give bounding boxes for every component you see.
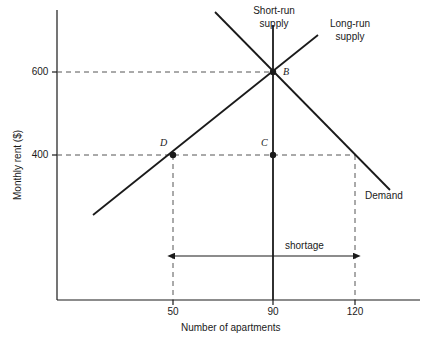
long-run-supply-curve <box>93 35 318 215</box>
long-run-supply-label-line2: supply <box>320 31 380 43</box>
long-run-supply-label-line1: Long-run <box>320 18 380 30</box>
point-c-marker <box>270 152 276 158</box>
x-tick-label-50: 50 <box>160 306 186 318</box>
x-tick-label-120: 120 <box>341 306 369 318</box>
shortage-label: shortage <box>285 240 324 252</box>
demand-label: Demand <box>365 190 403 202</box>
x-tick-label-90: 90 <box>260 306 286 318</box>
point-b-label: B <box>283 66 289 78</box>
short-run-supply-label-line1: Short-run <box>243 5 305 17</box>
x-axis-title: Number of apartments <box>181 322 281 334</box>
y-tick-label-600: 600 <box>27 66 53 78</box>
y-axis-ticks <box>52 72 57 155</box>
y-axis-title: Monthly rent ($) <box>12 130 24 200</box>
point-d-marker <box>170 152 176 158</box>
short-run-supply-label-line2: supply <box>243 18 305 30</box>
point-c-label: C <box>261 137 268 149</box>
y-tick-label-400: 400 <box>27 149 53 161</box>
economics-supply-demand-figure: 600 400 50 90 120 Monthly rent ($) Numbe… <box>0 0 429 342</box>
point-b-marker <box>270 69 276 75</box>
curves <box>93 12 390 300</box>
x-axis-ticks <box>173 300 355 305</box>
guide-lines <box>57 72 355 300</box>
chart-canvas <box>0 0 429 342</box>
point-d-label: D <box>160 137 167 149</box>
